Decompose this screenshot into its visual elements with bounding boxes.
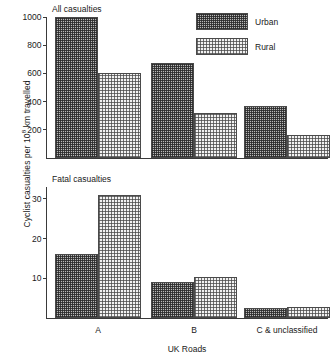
bar-rural-1 [194,277,237,318]
y-tick-mark [43,45,46,46]
y-tick-30: 30 [32,194,46,204]
subtitle-all-casualties: All casualties [52,4,102,14]
y-tick-mark [43,129,46,130]
legend-item-urban: Urban [196,13,278,30]
x-category-label-1: B [191,325,197,335]
y-tick-10: 10 [32,273,46,283]
cyclist-casualties-figure: Cyclist casualties per 108 km travelled … [0,0,330,361]
y-tick-label: 400 [27,97,41,107]
y-tick-mark [43,101,46,102]
top-panel-x-axis [46,158,328,159]
y-tick-label: 200 [27,125,41,135]
bar-rural-0 [98,73,141,158]
legend-item-rural: Rural [196,38,275,55]
bar-urban-0 [55,17,98,158]
y-tick-mark [43,238,46,239]
bar-rural-2 [287,307,330,318]
y-tick-800: 800 [27,40,46,50]
bar-rural-0 [98,195,141,318]
y-tick-label: 600 [27,68,41,78]
legend-swatch-rural [196,38,248,55]
subtitle-fatal-casualties: Fatal casualties [52,174,111,184]
x-axis-title: UK Roads [168,344,207,354]
x-category-label-0: A [95,325,101,335]
y-tick-200: 200 [27,125,46,135]
y-tick-label: 1000 [23,12,42,22]
bottom-panel-plot-area [47,187,328,318]
bar-rural-1 [194,113,237,158]
y-axis-label: Cyclist casualties per 108 km travelled [20,54,32,254]
y-tick-mark [43,17,46,18]
bar-rural-2 [287,135,330,158]
bar-urban-2 [244,106,287,158]
bottom-panel-x-axis [46,318,328,319]
y-tick-600: 600 [27,68,46,78]
legend: Urban Rural [196,13,328,59]
panel-fatal-casualties: 102030 [46,187,328,319]
y-tick-20: 20 [32,234,46,244]
y-tick-mark [43,278,46,279]
y-axis-label-exponent: 8 [20,130,27,134]
bar-urban-1 [151,63,194,158]
y-tick-label: 20 [32,234,41,244]
legend-swatch-urban [196,13,248,30]
y-tick-mark [43,73,46,74]
legend-label-rural: Rural [255,42,275,52]
bar-urban-0 [55,254,98,318]
y-tick-label: 800 [27,40,41,50]
y-tick-label: 30 [32,194,41,204]
bar-urban-1 [151,282,194,318]
y-tick-mark [43,198,46,199]
x-category-label-2: C & unclassified [257,325,318,335]
y-tick-label: 10 [32,273,41,283]
bar-urban-2 [244,308,287,318]
y-tick-400: 400 [27,97,46,107]
y-tick-1000: 1000 [23,12,46,22]
y-axis-label-prefix: Cyclist casualties per 10 [22,133,32,227]
legend-label-urban: Urban [255,17,278,27]
